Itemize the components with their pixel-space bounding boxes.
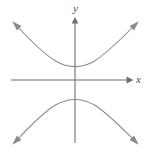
x-axis-group: [11, 77, 134, 84]
y-axis-arrow-up-icon: [72, 17, 79, 24]
x-axis-label: x: [136, 74, 141, 85]
x-axis-arrow-right-icon: [127, 77, 134, 84]
y-axis-label: y: [73, 3, 78, 14]
hyperbola-figure: y x: [0, 0, 151, 156]
graph-canvas: [0, 0, 151, 156]
